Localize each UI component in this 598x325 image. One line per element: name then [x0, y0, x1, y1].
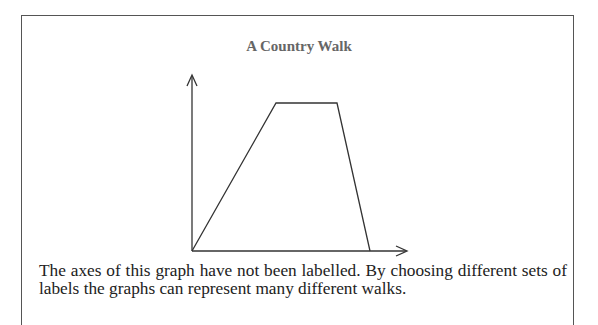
y-axis: [187, 75, 197, 251]
caption-line-1: The axes of this graph have not been lab…: [39, 262, 567, 280]
figure-caption: The axes of this graph have not been lab…: [39, 262, 567, 298]
x-axis: [192, 246, 407, 256]
walk-line: [192, 103, 370, 251]
caption-line-2: labels the graphs can represent many dif…: [39, 280, 567, 298]
